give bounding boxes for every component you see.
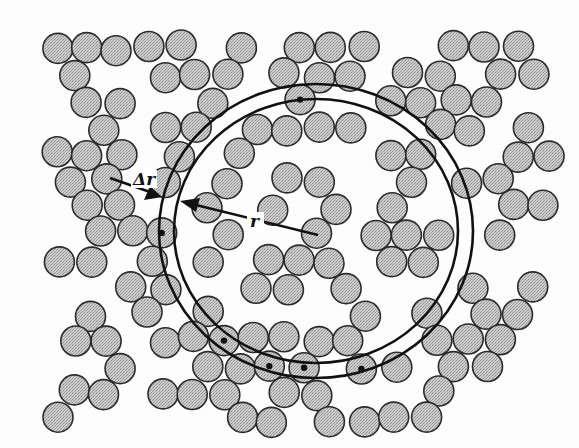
particle	[254, 245, 284, 275]
particle	[72, 33, 102, 63]
particle	[333, 326, 363, 356]
particle	[519, 59, 549, 89]
particle	[101, 36, 131, 66]
particle	[241, 273, 271, 303]
particle	[151, 63, 181, 93]
particle	[178, 321, 208, 351]
particle	[486, 59, 516, 89]
shell-particle-center-dot	[221, 337, 227, 343]
particle	[77, 247, 107, 277]
particle	[422, 325, 452, 355]
particle	[331, 274, 361, 304]
particle	[528, 190, 558, 220]
particle	[349, 32, 379, 62]
particle	[503, 300, 533, 330]
particle	[61, 326, 91, 356]
shell-particle-center-dot	[301, 365, 307, 371]
particle	[180, 60, 210, 90]
particle	[397, 167, 427, 197]
particle	[269, 58, 299, 88]
particle	[256, 407, 286, 437]
particle	[166, 30, 196, 60]
particle	[376, 141, 406, 171]
particle	[304, 167, 334, 197]
particle	[228, 402, 258, 432]
particle	[272, 116, 302, 146]
particle	[469, 32, 499, 62]
particle	[105, 354, 135, 384]
particle	[513, 113, 543, 143]
particle	[377, 193, 407, 223]
particle	[424, 220, 454, 250]
particle	[454, 116, 484, 146]
particle	[499, 189, 529, 219]
particle	[473, 352, 503, 382]
particle	[321, 194, 351, 224]
particle	[226, 354, 256, 384]
shell-particle-center-dot	[358, 366, 364, 372]
particle	[304, 327, 334, 357]
particle	[393, 58, 423, 88]
particle	[336, 113, 366, 143]
particle	[212, 169, 242, 199]
delta-r-label-text: Δr	[132, 169, 156, 189]
particle	[86, 216, 116, 246]
particle	[193, 247, 223, 277]
particle	[226, 33, 256, 63]
r-label: r	[247, 211, 264, 231]
delta-r-label: Δr	[131, 169, 157, 189]
particle	[315, 32, 345, 62]
particle	[350, 407, 380, 437]
shell-particle-center-dot	[159, 230, 165, 236]
particle	[118, 216, 148, 246]
particle	[408, 247, 438, 277]
particle	[391, 220, 421, 250]
particle	[59, 375, 89, 405]
particle	[314, 407, 344, 437]
diagram-canvas: Δr r	[0, 0, 579, 448]
particle	[132, 297, 162, 327]
particle	[485, 220, 515, 250]
particle	[193, 352, 223, 382]
particle	[148, 379, 178, 409]
particle	[269, 377, 299, 407]
particle	[438, 31, 468, 61]
shell-particle-center-dot	[266, 363, 272, 369]
particle	[60, 61, 90, 91]
particle	[314, 248, 344, 278]
particle	[213, 220, 243, 250]
particle	[151, 328, 181, 358]
particle	[485, 325, 515, 355]
particle	[89, 380, 119, 410]
particle	[284, 245, 314, 275]
particle	[377, 247, 407, 277]
particle	[453, 324, 483, 354]
particle	[273, 275, 303, 305]
particle	[224, 138, 254, 168]
particle	[44, 247, 74, 277]
particle	[361, 221, 391, 251]
r-label-text: r	[250, 211, 260, 231]
particle	[379, 402, 409, 432]
particle	[43, 402, 73, 432]
particle	[504, 31, 534, 61]
particle	[269, 322, 299, 352]
particle	[43, 33, 73, 63]
particle	[72, 141, 102, 171]
packing-diagram: Δr r	[0, 0, 579, 448]
particle	[426, 109, 456, 139]
particle	[213, 59, 243, 89]
particle	[71, 87, 101, 117]
particle	[105, 89, 135, 119]
shell-particle-center-dot	[297, 96, 303, 102]
particle	[483, 164, 513, 194]
particle	[151, 113, 181, 143]
particle	[412, 402, 442, 432]
particle	[304, 112, 334, 142]
particle	[91, 326, 121, 356]
particle	[534, 141, 564, 171]
particle	[177, 380, 207, 410]
particle	[89, 115, 119, 145]
particle	[472, 87, 502, 117]
particle	[272, 163, 302, 193]
